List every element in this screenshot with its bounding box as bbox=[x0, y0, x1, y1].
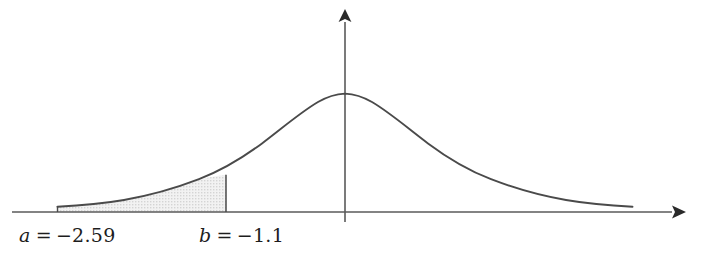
x-axis-arrowhead bbox=[672, 206, 686, 219]
lower-bound-label: a=−2.59 bbox=[19, 226, 116, 245]
normal-curve-plot bbox=[0, 0, 701, 257]
upper-bound-value: −1.1 bbox=[237, 224, 284, 246]
upper-bound-equals: = bbox=[216, 224, 232, 246]
y-axis-arrowhead bbox=[339, 9, 352, 22]
normal-distribution-figure: a=−2.59 b=−1.1 bbox=[0, 0, 701, 257]
lower-bound-value: −2.59 bbox=[56, 224, 116, 246]
lower-bound-variable: a bbox=[19, 224, 31, 246]
upper-bound-variable: b bbox=[199, 224, 211, 246]
lower-bound-equals: = bbox=[36, 224, 52, 246]
shaded-probability-area bbox=[58, 175, 227, 212]
upper-bound-label: b=−1.1 bbox=[199, 226, 284, 245]
